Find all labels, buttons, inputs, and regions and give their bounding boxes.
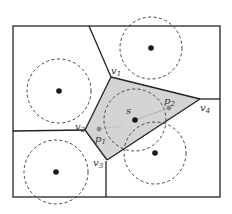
- point-p1: [97, 127, 102, 132]
- site-top-right: [148, 45, 154, 51]
- label-v2: v2: [75, 121, 86, 134]
- cell-of-s: [85, 77, 200, 160]
- site-s: [132, 117, 138, 123]
- site-bottom-right: [152, 150, 158, 156]
- voronoi-diagram: s v1 v2 v3 v4 p1 p2: [0, 0, 232, 214]
- label-v1: v1: [111, 65, 121, 78]
- label-s: s: [126, 105, 131, 116]
- site-left: [56, 88, 62, 94]
- label-v3: v3: [93, 157, 104, 170]
- label-v4: v4: [200, 102, 210, 115]
- site-bottom-left: [53, 169, 59, 175]
